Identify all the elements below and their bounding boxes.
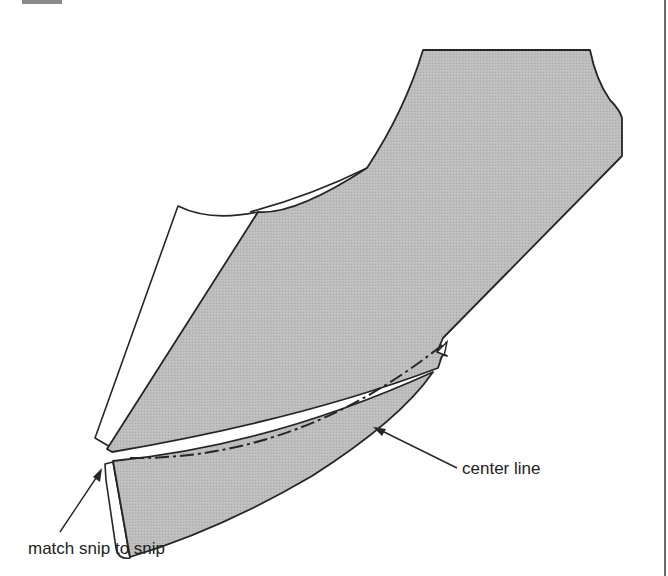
match-snip-arrow-shaft (60, 472, 100, 532)
pattern-diagram: center line match snip to snip (0, 0, 668, 576)
center-line-label: center line (462, 460, 540, 477)
match-snip-label: match snip to snip (28, 540, 165, 557)
center-line-arrow-shaft (376, 428, 457, 468)
pattern-drawing (0, 0, 668, 576)
